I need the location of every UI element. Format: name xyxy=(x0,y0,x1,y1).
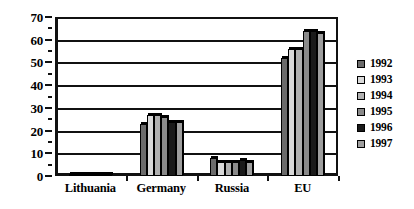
legend-label: 1996 xyxy=(370,122,392,134)
legend-swatch-icon xyxy=(357,140,365,148)
y-tick-label: 50 xyxy=(31,56,43,69)
x-tick xyxy=(126,176,128,181)
y-tick-minor xyxy=(48,50,52,52)
legend-swatch-icon xyxy=(357,60,365,68)
y-tick-label: 70 xyxy=(31,11,43,24)
x-tick-label: Lithuania xyxy=(65,181,116,196)
y-tick-label: 60 xyxy=(31,33,43,46)
y-tick-minor xyxy=(48,27,52,29)
legend-label: 1997 xyxy=(370,138,392,150)
bar-chart: 70 60 50 40 30 20 10 0 xyxy=(0,0,414,209)
gridline xyxy=(58,131,336,133)
y-tick-major xyxy=(45,61,52,63)
legend-label: 1992 xyxy=(370,58,392,70)
y-tick-major xyxy=(45,107,52,109)
legend-label: 1993 xyxy=(370,74,392,86)
gridline xyxy=(58,40,336,42)
y-tick-major xyxy=(45,39,52,41)
legend-swatch-icon xyxy=(357,92,365,100)
legend-item: 1992 xyxy=(357,56,413,72)
x-tick xyxy=(338,176,340,181)
x-tick-label: Germany xyxy=(136,181,185,196)
x-tick xyxy=(267,176,269,181)
y-tick-label: 0 xyxy=(37,170,43,183)
x-tick xyxy=(197,176,199,181)
y-tick-major xyxy=(45,130,52,132)
gridline xyxy=(58,108,336,110)
y-tick-label: 40 xyxy=(31,79,43,92)
x-tick-label: EU xyxy=(294,181,311,196)
y-tick-major xyxy=(45,175,52,177)
y-tick-minor xyxy=(48,73,52,75)
y-tick-major xyxy=(45,84,52,86)
y-tick-major xyxy=(45,16,52,18)
legend-label: 1994 xyxy=(370,90,392,102)
legend-swatch-icon xyxy=(357,108,365,116)
legend: 1992 1993 1994 1995 1996 1997 xyxy=(357,56,413,152)
y-tick-label: 30 xyxy=(31,101,43,114)
x-axis: LithuaniaGermanyRussiaEU xyxy=(55,181,338,203)
plot-area xyxy=(55,17,338,176)
legend-swatch-icon xyxy=(357,124,365,132)
y-tick-minor xyxy=(48,118,52,120)
y-tick-minor xyxy=(48,96,52,98)
gridline xyxy=(58,153,336,155)
y-tick-label: 10 xyxy=(31,147,43,160)
legend-item: 1997 xyxy=(357,136,413,152)
x-tick-label: Russia xyxy=(215,181,249,196)
legend-swatch-icon xyxy=(357,76,365,84)
legend-item: 1993 xyxy=(357,72,413,88)
legend-label: 1995 xyxy=(370,106,392,118)
y-axis: 70 60 50 40 30 20 10 0 xyxy=(0,17,52,176)
gridline xyxy=(58,85,336,87)
legend-item: 1994 xyxy=(357,88,413,104)
legend-item: 1996 xyxy=(357,120,413,136)
gridline xyxy=(58,62,336,64)
y-tick-minor xyxy=(48,141,52,143)
y-tick-major xyxy=(45,152,52,154)
y-tick-minor xyxy=(48,164,52,166)
gridlines xyxy=(58,19,336,173)
legend-item: 1995 xyxy=(357,104,413,120)
y-tick-label: 20 xyxy=(31,124,43,137)
